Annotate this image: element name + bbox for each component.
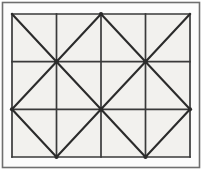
- vertex-dot-right-mid: [143, 59, 148, 64]
- triangle-grid-figure: [0, 0, 203, 171]
- vertex-dot-right-lower: [188, 107, 192, 111]
- figure-container: [0, 0, 203, 171]
- vertex-dot-left-mid: [54, 59, 59, 64]
- vertex-dot-left-lower: [10, 107, 14, 111]
- vertex-dot-bottom-left: [54, 155, 58, 159]
- vertex-dot-top-mid: [99, 12, 103, 16]
- vertex-dot-center: [99, 107, 104, 112]
- vertex-dot-bottom-right: [143, 155, 147, 159]
